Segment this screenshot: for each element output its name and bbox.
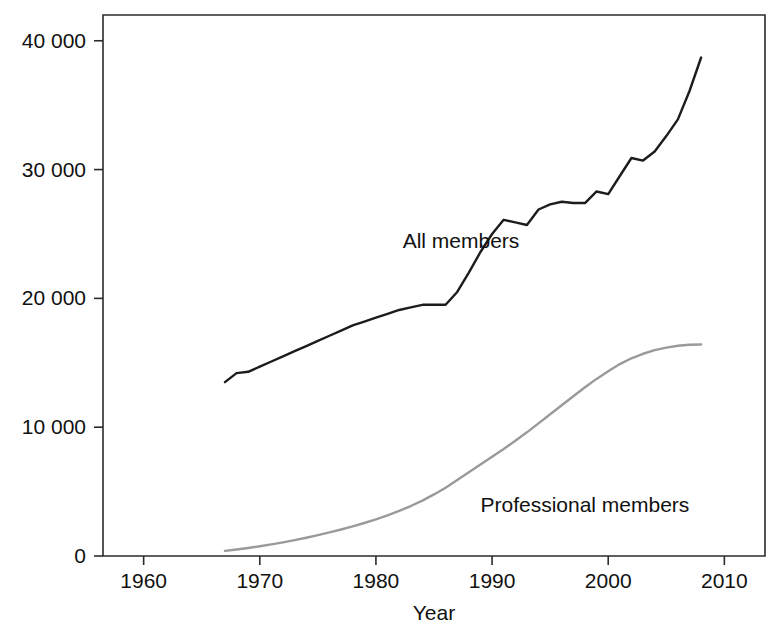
y-tick-label: 30 000 (22, 158, 86, 181)
series-annotations: All membersProfessional members (403, 229, 690, 516)
series-line-professional-members (225, 344, 701, 550)
x-tick-label: 2010 (701, 569, 748, 592)
series-group (225, 58, 701, 551)
chart-container: 010 00020 00030 00040 000 19601970198019… (0, 0, 776, 631)
x-tick-label: 2000 (585, 569, 632, 592)
series-label-all-members: All members (403, 229, 520, 252)
y-tick-label: 0 (74, 544, 86, 567)
y-tick-label: 20 000 (22, 286, 86, 309)
x-axis-ticks: 196019701980199020002010 (120, 556, 747, 592)
x-tick-label: 1990 (469, 569, 516, 592)
line-chart: 010 00020 00030 00040 000 19601970198019… (0, 0, 776, 631)
series-label-professional-members: Professional members (480, 493, 689, 516)
x-axis-title: Year (413, 601, 455, 624)
y-axis-ticks: 010 00020 00030 00040 000 (22, 29, 103, 567)
axis-frame (103, 15, 765, 556)
x-tick-label: 1970 (236, 569, 283, 592)
x-tick-label: 1980 (353, 569, 400, 592)
series-line-all-members (225, 58, 701, 383)
y-tick-label: 40 000 (22, 29, 86, 52)
y-tick-label: 10 000 (22, 415, 86, 438)
x-tick-label: 1960 (120, 569, 167, 592)
plot-frame (103, 15, 765, 556)
